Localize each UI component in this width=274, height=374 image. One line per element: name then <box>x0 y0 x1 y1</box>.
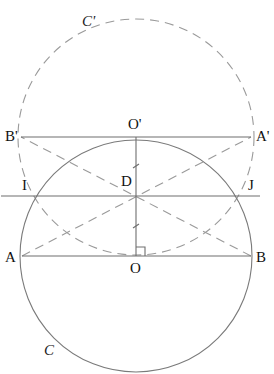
label-j: J <box>248 177 254 193</box>
label-a: A <box>5 249 16 265</box>
label-o-prime: O' <box>128 116 142 132</box>
geometry-diagram: C' C B' A' O' D I J A B O <box>0 0 274 374</box>
label-c: C <box>44 342 55 358</box>
label-o: O <box>130 260 141 276</box>
label-c-prime: C' <box>82 13 96 29</box>
label-i: I <box>22 177 27 193</box>
label-b: B <box>256 249 266 265</box>
label-a-prime: A' <box>256 128 270 144</box>
label-d: D <box>121 173 132 189</box>
label-b-prime: B' <box>5 128 18 144</box>
